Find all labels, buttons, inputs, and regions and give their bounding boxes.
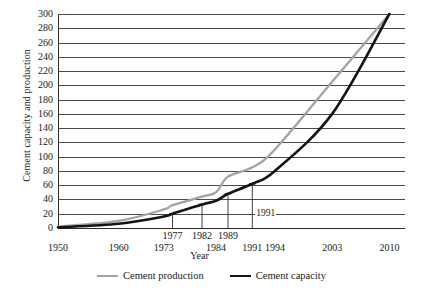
chart-legend: Cement production Cement capacity xyxy=(0,270,423,281)
legend-label-production: Cement production xyxy=(123,270,204,281)
x-tick-1977: 1977 xyxy=(163,231,183,241)
legend-item-cement-production[interactable]: Cement production xyxy=(97,270,204,281)
x-tick-1982: 1982 xyxy=(192,231,212,241)
legend-line-icon-production xyxy=(97,275,118,277)
x-axis-title-text: Year xyxy=(190,250,208,261)
legend-item-cement-capacity[interactable]: Cement capacity xyxy=(230,270,326,281)
legend-label-capacity: Cement capacity xyxy=(256,270,326,281)
x-tick-1989: 1989 xyxy=(218,231,238,241)
x-axis-title: Year xyxy=(0,250,423,261)
legend-line-icon-capacity xyxy=(230,275,251,277)
chart-figure: Cement capacity and production 300280260… xyxy=(0,0,423,297)
